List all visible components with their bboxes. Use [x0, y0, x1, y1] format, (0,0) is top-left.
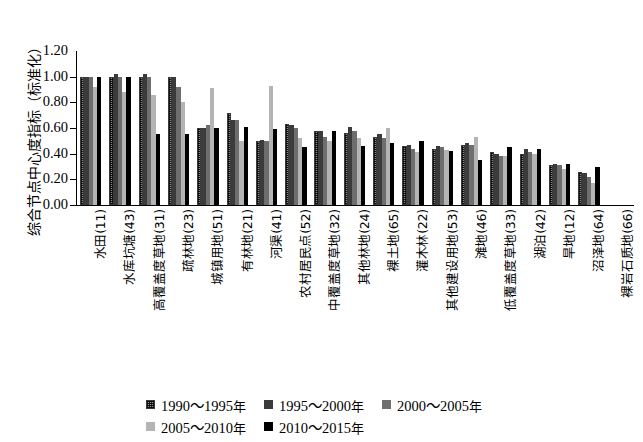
- legend-label: 2005～2010年: [161, 416, 246, 437]
- bar: [537, 149, 541, 205]
- legend-swatch: [264, 422, 273, 431]
- y-axis-tick-label: 0.40: [22, 146, 68, 161]
- legend-item: 2000～2005年: [382, 394, 482, 415]
- bar-group: [578, 51, 601, 205]
- y-axis-tick: [70, 205, 76, 206]
- bar: [302, 147, 306, 205]
- legend-swatch: [382, 400, 391, 409]
- bar-chart: 综合节点中心度指标（标准化） 1.201.000.800.600.400.200…: [0, 0, 643, 442]
- legend-item: 2010～2015年: [264, 416, 364, 437]
- y-axis-tick-label: 0.20: [22, 171, 68, 186]
- x-axis-line: [76, 205, 634, 206]
- bar: [332, 131, 336, 205]
- legend-item: 1990～1995年: [146, 394, 246, 415]
- x-axis-category-label: 旱地(12): [559, 209, 578, 259]
- x-axis-category-label: 农村居民点(52): [295, 209, 314, 298]
- bar-group: [344, 51, 367, 205]
- x-axis-category-label: 中覆盖度草地(32): [324, 209, 343, 311]
- x-axis-category-label: 沼泽地(64): [588, 209, 607, 272]
- bar: [126, 77, 130, 205]
- bar-group: [139, 51, 162, 205]
- bar-group: [109, 51, 132, 205]
- x-axis-category-label: 其他林地(24): [354, 209, 373, 285]
- legend-swatch: [146, 400, 155, 409]
- x-axis-category-label: 裸岩石质地(66): [617, 209, 636, 298]
- y-axis-tick-label: 0.00: [22, 197, 68, 212]
- bar-group: [461, 51, 484, 205]
- bar-group: [432, 51, 455, 205]
- bar-group: [256, 51, 279, 205]
- x-axis-category-label: 疏林地(23): [178, 209, 197, 272]
- bar: [507, 147, 511, 205]
- y-axis-tick-label: 0.80: [22, 94, 68, 109]
- legend-label: 1990～1995年: [161, 394, 246, 415]
- y-axis-tick-label: 1.00: [22, 69, 68, 84]
- legend-label: 2000～2005年: [397, 394, 482, 415]
- bar-group: [549, 51, 572, 205]
- y-axis-tick-label: 0.60: [22, 120, 68, 135]
- bar-group: [520, 51, 543, 205]
- bar-group: [314, 51, 337, 205]
- bar-group: [373, 51, 396, 205]
- x-axis-category-label: 高覆盖度草地(31): [149, 209, 168, 311]
- bar: [185, 134, 189, 205]
- x-axis-category-label: 灌木林(22): [412, 209, 431, 272]
- bar: [156, 134, 160, 205]
- bar: [273, 129, 277, 205]
- x-axis-category-label: 水库坑塘(43): [119, 209, 138, 285]
- y-axis-tick-label: 1.20: [22, 43, 68, 58]
- legend-label: 2010～2015年: [279, 416, 364, 437]
- x-axis-category-label: 有林地(21): [237, 209, 256, 272]
- bar: [419, 141, 423, 205]
- bar: [97, 77, 101, 205]
- legend-row: 1990～1995年1995～2000年2000～2005年: [146, 393, 626, 415]
- bar-group: [490, 51, 513, 205]
- bar: [449, 151, 453, 205]
- bar-group: [227, 51, 250, 205]
- bar-group: [607, 51, 630, 205]
- bar: [214, 128, 218, 205]
- chart-legend: 1990～1995年1995～2000年2000～2005年2005～2010年…: [146, 393, 626, 437]
- bar-group: [168, 51, 191, 205]
- y-axis-tick-labels: 1.201.000.800.600.400.200.00: [0, 0, 70, 442]
- legend-item: 1995～2000年: [264, 394, 364, 415]
- bar-group: [285, 51, 308, 205]
- legend-item: 2005～2010年: [146, 416, 246, 437]
- bar-group: [80, 51, 103, 205]
- bar: [566, 164, 570, 205]
- legend-row: 2005～2010年2010～2015年: [146, 415, 626, 437]
- bar: [478, 160, 482, 205]
- bar: [595, 167, 599, 206]
- x-axis-category-label: 滩地(46): [471, 209, 490, 259]
- bar-group: [402, 51, 425, 205]
- x-axis-category-label: 其他建设用地(53): [442, 209, 461, 311]
- x-axis-category-label: 湖泊(42): [530, 209, 549, 259]
- legend-swatch: [264, 400, 273, 409]
- x-axis-category-label: 水田(11): [90, 209, 109, 259]
- x-axis-category-label: 裸土地(65): [383, 209, 402, 272]
- x-axis-category-label: 河渠(41): [266, 209, 285, 259]
- legend-label: 1995～2000年: [279, 394, 364, 415]
- legend-swatch: [146, 422, 155, 431]
- bar: [361, 146, 365, 205]
- plot-area: [76, 51, 633, 205]
- x-axis-category-label: 城镇用地(51): [207, 209, 226, 285]
- bar-group: [197, 51, 220, 205]
- x-axis-category-label: 低覆盖度草地(33): [500, 209, 519, 311]
- bar: [244, 127, 248, 205]
- bar: [390, 143, 394, 205]
